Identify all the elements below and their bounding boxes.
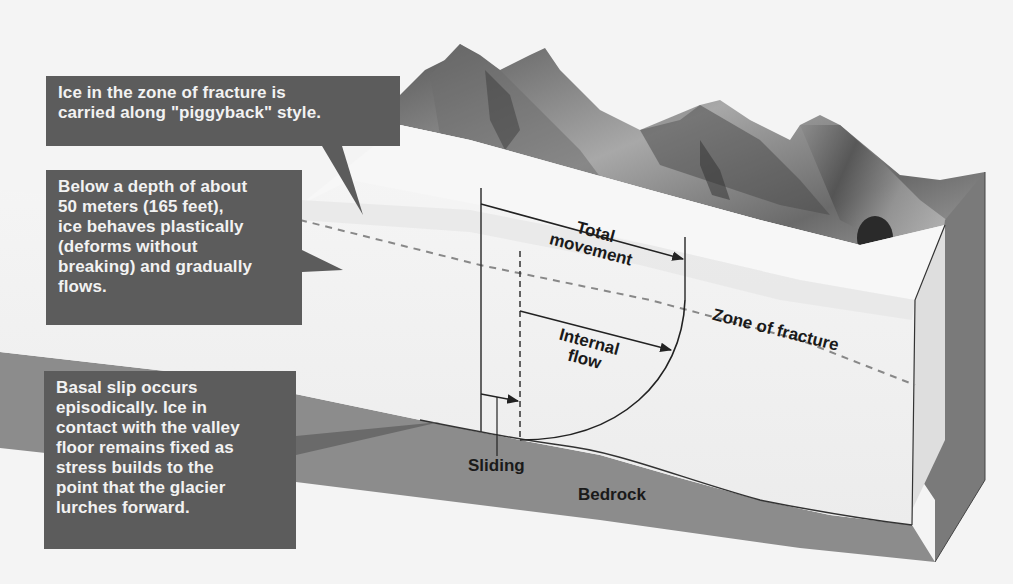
callout-basal-slip-text: Basal slip occurs episodically. Ice in c… xyxy=(56,378,286,518)
callout-plastic-flow: Below a depth of about 50 meters (165 fe… xyxy=(46,170,302,325)
callout-plastic-flow-text: Below a depth of about 50 meters (165 fe… xyxy=(58,177,292,297)
callout-fracture-zone: Ice in the zone of fracture is carried a… xyxy=(46,76,400,146)
label-bedrock: Bedrock xyxy=(578,486,646,504)
callout-fracture-zone-text: Ice in the zone of fracture is carried a… xyxy=(58,83,390,123)
label-sliding: Sliding xyxy=(468,457,525,475)
callout-basal-slip: Basal slip occurs episodically. Ice in c… xyxy=(44,371,296,549)
